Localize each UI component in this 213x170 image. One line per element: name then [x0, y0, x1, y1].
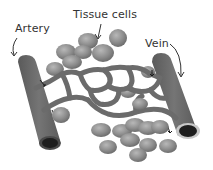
tissue-cells-label: Tissue cells — [73, 9, 137, 21]
vein-label: Vein — [145, 38, 169, 50]
artery-label: Artery — [15, 23, 50, 35]
